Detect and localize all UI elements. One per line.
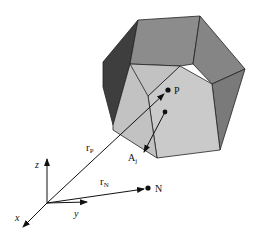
label-n: N — [155, 183, 162, 194]
polyhedron-vector-diagram: P Aj rP N rN z y x — [0, 0, 262, 245]
label-axis-x: x — [14, 212, 20, 223]
point-n-dot — [145, 185, 150, 190]
label-aj: Aj — [128, 152, 137, 165]
vector-rn — [47, 189, 144, 203]
label-p: P — [174, 85, 180, 96]
label-rn: rN — [100, 175, 109, 189]
label-axis-y: y — [73, 208, 79, 219]
label-axis-z: z — [34, 159, 39, 170]
coordinate-axes: z y x — [14, 159, 87, 227]
label-rp: rP — [86, 141, 94, 155]
axis-x — [23, 203, 47, 227]
face-top — [130, 16, 200, 66]
point-p-dot — [165, 87, 170, 92]
